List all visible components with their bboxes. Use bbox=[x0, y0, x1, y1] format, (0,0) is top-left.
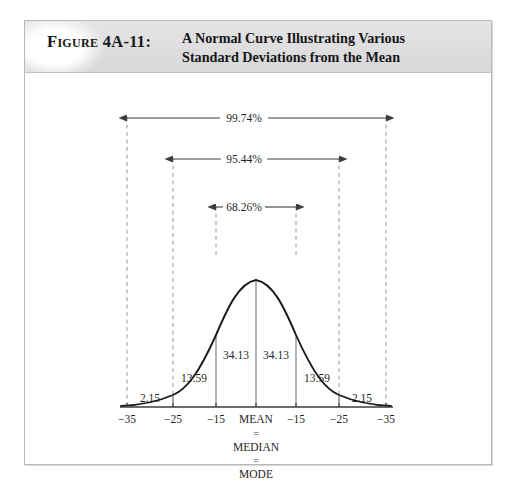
area-label-right-2-15: 2.15 bbox=[352, 392, 372, 404]
figure-title-line-2: Standard Deviations from the Mean bbox=[182, 48, 472, 67]
span-arrow-68: 68.26% bbox=[216, 201, 296, 213]
area-label-right-13-59: 13.59 bbox=[304, 372, 330, 384]
tick-label-plus2sd: −25 bbox=[330, 413, 348, 425]
tick-label-mean: MEAN bbox=[239, 413, 274, 425]
area-label-right-34-13: 34.13 bbox=[263, 349, 289, 361]
figure-title: A Normal Curve Illustrating Various Stan… bbox=[182, 29, 472, 66]
area-label-left-13-59: 13.59 bbox=[181, 372, 207, 384]
tick-label-minus2sd: −25 bbox=[164, 413, 182, 425]
tick-label-plus3sd: −35 bbox=[377, 413, 395, 425]
figure-box: Figure 4A-11: A Normal Curve Illustratin… bbox=[24, 20, 492, 465]
span-label-95: 95.44% bbox=[226, 153, 262, 165]
tick-label-minus1sd: −15 bbox=[207, 413, 225, 425]
figure-label: Figure 4A-11: bbox=[47, 32, 151, 52]
span-label-99: 99.74% bbox=[226, 112, 262, 124]
normal-curve-chart: 99.74% 95.44% 68.26% bbox=[25, 73, 491, 465]
figure-header: Figure 4A-11: A Normal Curve Illustratin… bbox=[25, 21, 491, 73]
center-label-mode: MODE bbox=[239, 468, 273, 480]
area-label-left-34-13: 34.13 bbox=[223, 349, 249, 361]
span-label-68: 68.26% bbox=[226, 201, 262, 213]
tick-label-plus1sd: −15 bbox=[287, 413, 305, 425]
center-label-mode-wrap: MODE bbox=[25, 464, 491, 482]
center-equals-1: = bbox=[253, 428, 259, 439]
tick-label-minus3sd: −35 bbox=[118, 413, 136, 425]
center-label-median: MEDIAN bbox=[233, 441, 280, 453]
area-label-left-2-15: 2.15 bbox=[140, 392, 160, 404]
span-arrow-99: 99.74% bbox=[127, 112, 386, 124]
span-arrow-95: 95.44% bbox=[173, 153, 339, 165]
figure-title-line-1: A Normal Curve Illustrating Various bbox=[182, 29, 472, 48]
solid-guides bbox=[173, 280, 339, 407]
